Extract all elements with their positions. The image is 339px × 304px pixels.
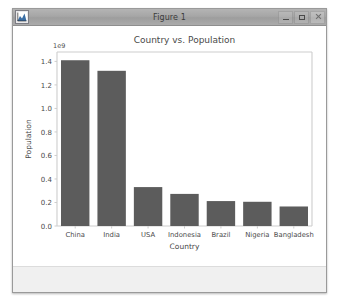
x-axis-tick-label: India <box>103 231 120 239</box>
y-axis-tick-label: 0.2 <box>41 199 52 207</box>
bar <box>134 187 162 226</box>
minimize-icon <box>283 19 289 20</box>
y-axis-tick-label: 0.4 <box>41 176 53 184</box>
bar <box>243 202 271 226</box>
figure-canvas[interactable]: Country vs. Population1e90.00.20.40.60.8… <box>13 26 326 266</box>
bar <box>61 60 89 226</box>
x-axis-tick-label: Indonesia <box>168 231 201 239</box>
y-axis-offset-text: 1e9 <box>53 42 65 50</box>
y-axis-tick-label: 1.4 <box>41 58 53 66</box>
y-axis-label: Population <box>24 119 33 159</box>
bar <box>97 71 125 226</box>
x-axis-tick-label: USA <box>141 231 155 239</box>
bar <box>207 201 235 226</box>
x-axis-tick-label: Bangladesh <box>274 231 314 239</box>
bar <box>170 194 198 226</box>
y-axis-tick-label: 1.0 <box>41 105 52 113</box>
bar-chart: Country vs. Population1e90.00.20.40.60.8… <box>13 26 326 266</box>
desktop-background: Figure 1 Country vs. Population1e90.00.2… <box>0 0 339 304</box>
x-axis-tick-label: China <box>66 231 85 239</box>
bar <box>280 206 308 226</box>
navigation-toolbar[interactable] <box>13 266 326 292</box>
figure-window[interactable]: Figure 1 Country vs. Population1e90.00.2… <box>12 8 327 293</box>
maximize-icon <box>299 15 305 20</box>
window-titlebar[interactable]: Figure 1 <box>13 9 326 26</box>
y-axis-tick-label: 0.6 <box>41 152 53 160</box>
minimize-button[interactable] <box>278 11 293 24</box>
window-controls <box>278 11 325 24</box>
y-axis-tick-label: 0.8 <box>41 129 52 137</box>
x-axis-tick-label: Brazil <box>211 231 230 239</box>
x-axis-label: Country <box>170 242 200 251</box>
chart-title: Country vs. Population <box>134 35 236 45</box>
matplotlib-figure-icon <box>15 10 29 24</box>
close-button[interactable] <box>310 11 325 24</box>
x-axis-tick-label: Nigeria <box>245 231 269 239</box>
y-axis-tick-label: 0.0 <box>41 223 52 231</box>
y-axis-tick-label: 1.2 <box>41 82 52 90</box>
maximize-button[interactable] <box>294 11 309 24</box>
close-icon <box>315 14 321 20</box>
